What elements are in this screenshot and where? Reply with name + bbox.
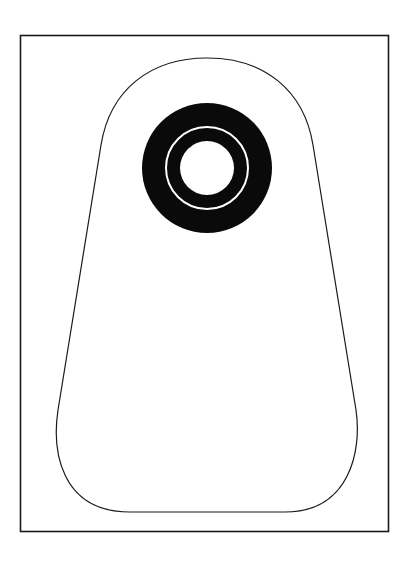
stoma-hole (180, 141, 234, 195)
pouch-diagram (0, 0, 411, 567)
